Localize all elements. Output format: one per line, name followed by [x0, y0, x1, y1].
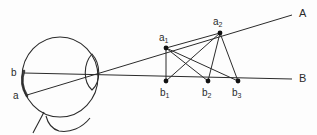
- line-b: [24, 73, 292, 79]
- label-a1-base: a: [159, 32, 165, 43]
- label-retina-b: b: [11, 68, 17, 78]
- label-a2-sub: 2: [219, 21, 223, 28]
- label-line-b: B: [299, 73, 306, 84]
- optic-nerve-sheath: [46, 116, 90, 131]
- line-a-group: [27, 15, 292, 95]
- retina-arc: [22, 71, 27, 96]
- eye-lens: [85, 54, 99, 90]
- label-line-a: A: [299, 8, 306, 19]
- point-b3: [236, 79, 241, 84]
- point-a2: [218, 31, 223, 36]
- line-b-group: [24, 73, 292, 79]
- label-a2: a2: [213, 17, 222, 27]
- label-b1: b1: [160, 88, 169, 98]
- point-b2: [206, 79, 211, 84]
- optic-nerve: [33, 112, 44, 133]
- label-b2-sub: 2: [208, 92, 212, 99]
- label-b2-base: b: [202, 87, 208, 98]
- ray-network: [166, 33, 238, 81]
- point-a1: [164, 46, 169, 51]
- label-a1-sub: 1: [165, 37, 169, 44]
- ray-diagram-svg: [0, 0, 317, 135]
- point-b1: [164, 79, 169, 84]
- label-b2: b2: [202, 88, 211, 98]
- label-b1-base: b: [160, 87, 166, 98]
- label-a2-base: a: [213, 16, 219, 27]
- line-a: [27, 15, 292, 95]
- label-b1-sub: 1: [166, 92, 170, 99]
- label-b3-base: b: [232, 87, 238, 98]
- label-a1: a1: [159, 33, 168, 43]
- diagram-canvas: A B b a a1 a2 b1 b2 b3: [0, 0, 317, 135]
- label-retina-a: a: [13, 91, 19, 101]
- label-b3-sub: 3: [238, 92, 242, 99]
- label-b3: b3: [232, 88, 241, 98]
